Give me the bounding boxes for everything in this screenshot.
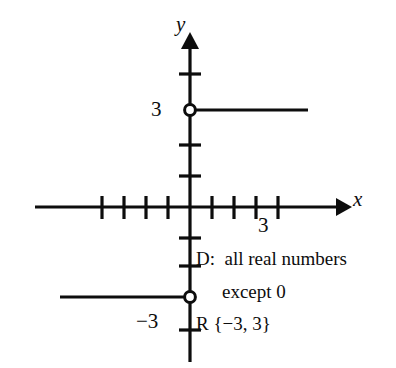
x-tick-label-three: 3 <box>258 215 269 236</box>
domain-annotation-line-2: except 0 <box>222 282 396 301</box>
open-point-lower <box>185 292 196 303</box>
x-axis-arrowhead <box>336 198 352 216</box>
y-tick-label-negative-three: −3 <box>136 311 158 332</box>
annotation-block: D: all real numbers except 0 R {−3, 3} <box>196 249 396 333</box>
y-tick-label-positive-three: 3 <box>151 99 162 120</box>
domain-annotation-line-1: D: all real numbers <box>196 249 396 268</box>
graph-figure: y x 3 −3 3 D: all real numbers except 0 … <box>0 0 396 368</box>
open-point-upper <box>185 105 196 116</box>
x-axis-label: x <box>353 189 362 210</box>
range-annotation: R {−3, 3} <box>196 314 396 333</box>
y-axis-label: y <box>176 14 185 35</box>
x-axis-group <box>35 196 352 219</box>
